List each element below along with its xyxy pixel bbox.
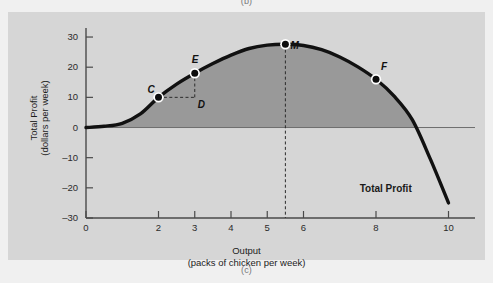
- point-label-e: E: [192, 54, 199, 65]
- y-tick-label: –20: [34, 182, 78, 193]
- figure-caption-bottom: (c): [0, 265, 493, 275]
- y-tick-label: 0: [34, 122, 78, 133]
- x-tick-label: 0: [66, 222, 106, 233]
- x-tick-label: 5: [247, 222, 287, 233]
- x-tick-label: 6: [284, 222, 324, 233]
- x-tick-label: 3: [175, 222, 215, 233]
- point-label-d: D: [198, 99, 205, 110]
- x-tick-label: 4: [211, 222, 251, 233]
- figure-container: (b) Total Profit (dollars per week) Outp…: [0, 0, 493, 283]
- chart-panel: Total Profit (dollars per week) Output (…: [8, 12, 485, 260]
- x-axis-title-line1: Output: [8, 245, 485, 257]
- point-label-c: C: [148, 84, 155, 95]
- x-tick-label: 2: [139, 222, 179, 233]
- y-tick-label: –10: [34, 152, 78, 163]
- x-tick-label: 10: [429, 222, 469, 233]
- point-label-m: M: [290, 40, 298, 51]
- x-tick-label: 8: [356, 222, 396, 233]
- y-tick-label: 10: [34, 91, 78, 102]
- figure-caption-top: (b): [0, 0, 493, 6]
- point-label-f: F: [381, 61, 387, 72]
- profit-area-fill: [86, 44, 449, 203]
- y-tick-label: 30: [34, 31, 78, 42]
- y-tick-label: 20: [34, 61, 78, 72]
- series-label-total-profit: Total Profit: [360, 183, 412, 194]
